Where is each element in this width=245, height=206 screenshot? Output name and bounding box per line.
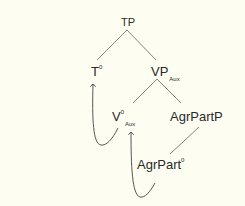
edge-agrpartp-agrpart0 [170,127,199,154]
tree-lines [0,0,245,206]
edge-vp-v0 [133,79,157,103]
edge-vp-agrpartp [157,79,181,103]
node-v0-label: V [112,109,121,124]
node-v0-superscript: 0 [121,109,124,115]
node-t0-label: T [91,64,99,79]
edge-tp-vp [127,30,156,60]
node-agrpart0: AgrPart0 [137,158,184,171]
node-agrpartp-label: AgrPartP [170,109,223,124]
node-tp-label: TP [121,16,135,28]
node-vp-aux: VPAux [151,65,180,78]
node-tp: TP [121,17,135,28]
node-agrpart0-label: AgrPart [137,157,181,172]
node-vp-subscript: Aux [169,76,179,82]
node-t0-superscript: 0 [99,64,102,70]
node-v0-subscript: Aux [125,121,135,127]
node-vp-label: VP [151,64,168,79]
node-agrpart0-superscript: 0 [181,157,184,163]
node-agrpartp: AgrPartP [170,110,223,123]
node-t0: T0 [91,65,102,78]
node-v0-aux: V0Aux [112,110,135,123]
edge-tp-t0 [97,30,127,60]
